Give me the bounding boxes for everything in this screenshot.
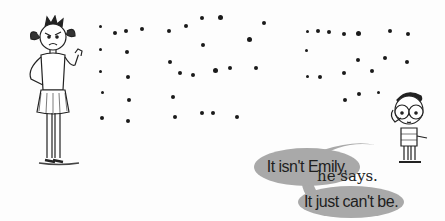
illustration-page: It isn't Emily, he says. It just can't b… (0, 0, 445, 221)
speech-bubble-2-text: It just can't be. (304, 193, 398, 211)
narration-text: he says. (317, 167, 378, 185)
speech-bubble-2: It just can't be. (298, 186, 404, 218)
